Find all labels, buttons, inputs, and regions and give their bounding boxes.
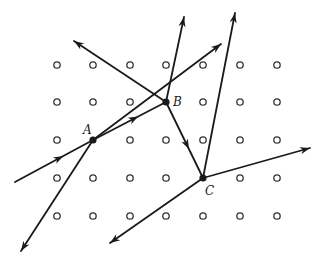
lattice-dot <box>274 213 280 219</box>
lattice-dot <box>237 213 243 219</box>
B-outgoing-upper-left-track <box>74 41 166 102</box>
vertex-label-a: A <box>82 123 92 137</box>
lattice-dot <box>163 213 169 219</box>
lattice-dot <box>127 175 133 181</box>
vertex-label-c: C <box>205 184 214 198</box>
lattice-dot <box>274 62 280 68</box>
lattice-dot <box>237 99 243 105</box>
lattice-dot <box>163 137 169 143</box>
vertex-a-point <box>89 136 96 143</box>
lattice-dot <box>274 99 280 105</box>
lattice-dot <box>127 137 133 143</box>
diagram-svg: A B C <box>0 0 322 262</box>
lattice-dot <box>200 62 206 68</box>
lattice-dot <box>163 62 169 68</box>
arrowhead-icon <box>74 41 84 50</box>
lattice-dot <box>90 175 96 181</box>
lattice-dot <box>237 62 243 68</box>
C-outgoing-up-track <box>203 13 237 178</box>
lattice-dot <box>90 62 96 68</box>
vertex-label-b: B <box>172 95 182 109</box>
vertex-b-point <box>162 98 169 105</box>
lattice-dot <box>200 99 206 105</box>
A-to-B-track <box>93 102 166 140</box>
B-to-C-track <box>166 102 203 178</box>
lattice-dot <box>54 137 60 143</box>
arrowhead-icon <box>21 241 29 251</box>
lattice-diagram: A B C <box>0 0 322 262</box>
lattice-dot <box>54 99 60 105</box>
C-outgoing-lower-left-track <box>110 178 203 243</box>
lattice-dot <box>237 175 243 181</box>
C-outgoing-right-track <box>203 147 310 178</box>
vertex-c-point <box>199 174 206 181</box>
lattice-dot <box>274 175 280 181</box>
lattice-dot <box>200 137 206 143</box>
lattice-dot <box>200 213 206 219</box>
A-outgoing-upper-right-track <box>93 44 221 140</box>
lattice-dot <box>274 137 280 143</box>
B-outgoing-up-track <box>166 17 185 102</box>
lattice-dot <box>163 175 169 181</box>
lattice-dot <box>90 213 96 219</box>
arrowhead-icon <box>110 234 120 243</box>
lattice-dot <box>127 99 133 105</box>
lattice-dot <box>90 99 96 105</box>
A-outgoing-lower-left-track <box>21 140 93 251</box>
lattice-dot <box>127 213 133 219</box>
lattice-dot <box>54 175 60 181</box>
lattice-dot <box>127 62 133 68</box>
lattice-dot <box>237 137 243 143</box>
lattice-dot <box>54 62 60 68</box>
lattice-dot <box>54 213 60 219</box>
